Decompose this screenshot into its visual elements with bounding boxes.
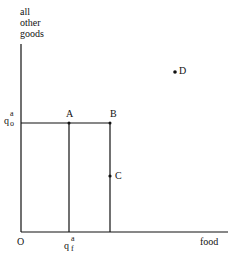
q-o-sup: a — [10, 109, 14, 119]
origin-label: O — [17, 237, 24, 247]
y-axis-label: all other goods — [20, 6, 44, 39]
point-d — [173, 70, 177, 74]
q-o-base: q — [4, 115, 9, 126]
y-label-line-1: all — [20, 6, 44, 17]
q-f-sup: a — [71, 234, 75, 244]
y-label-line-2: other — [20, 17, 44, 28]
point-c-label: C — [115, 171, 122, 181]
q-f-label: qaf — [64, 241, 69, 251]
q-o-label: qao — [4, 116, 9, 126]
x-axis-label: food — [200, 237, 218, 247]
q-f-sub: f — [71, 244, 74, 254]
point-a — [68, 122, 71, 125]
diagram-canvas — [0, 0, 235, 263]
point-b — [109, 122, 112, 125]
point-a-label: A — [66, 109, 73, 119]
point-c — [108, 174, 111, 177]
q-o-sub: o — [10, 119, 14, 129]
point-b-label: B — [110, 109, 117, 119]
point-d-label: D — [179, 66, 186, 76]
q-f-base: q — [64, 240, 69, 251]
y-label-line-3: goods — [20, 28, 44, 39]
